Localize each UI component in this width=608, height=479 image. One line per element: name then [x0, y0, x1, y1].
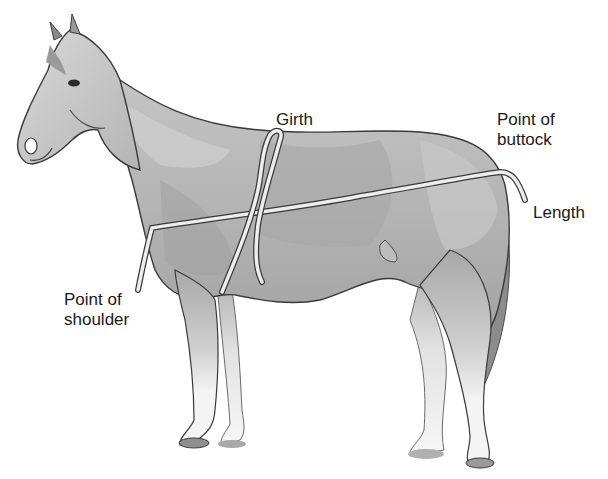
- far-fore-hoof: [218, 440, 246, 448]
- eye-icon: [68, 80, 80, 87]
- horse-head: [18, 14, 140, 170]
- horse-illustration: [0, 0, 608, 479]
- label-girth: Girth: [276, 110, 313, 130]
- nostril-icon: [25, 138, 37, 154]
- near-fore-hoof: [179, 438, 209, 448]
- ear-icon: [50, 22, 62, 40]
- label-point-of-buttock: Point of buttock: [497, 110, 555, 150]
- label-point-of-shoulder: Point of shoulder: [64, 290, 129, 330]
- ear-icon: [70, 14, 80, 34]
- horse-diagram: Girth Point of buttock Length Point of s…: [0, 0, 608, 479]
- near-hind-hoof: [466, 458, 494, 468]
- far-hind-hoof: [408, 449, 444, 459]
- label-length: Length: [533, 203, 585, 223]
- far-foreleg: [218, 290, 246, 448]
- near-foreleg: [175, 270, 218, 448]
